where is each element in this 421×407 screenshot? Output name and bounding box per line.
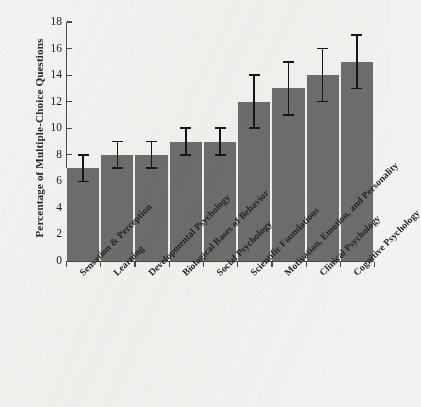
x-tick-mark xyxy=(134,262,135,267)
x-tick-mark xyxy=(271,262,272,267)
errorbar-stem xyxy=(288,62,290,115)
errorbar-cap-upper xyxy=(112,141,123,143)
errorbar-cap-upper xyxy=(78,154,89,156)
y-tick-mark xyxy=(67,75,72,76)
y-tick-label: 14 xyxy=(32,69,62,81)
y-tick-label: 0 xyxy=(32,255,62,267)
x-tick-mark xyxy=(237,262,238,267)
x-tick-mark xyxy=(169,262,170,267)
errorbar-cap-lower xyxy=(146,167,157,169)
errorbar-cap-lower xyxy=(78,181,89,183)
errorbar-cap-upper xyxy=(249,74,260,76)
errorbar-stem xyxy=(151,142,153,169)
errorbar-cap-lower xyxy=(283,114,294,116)
errorbar-stem xyxy=(356,35,358,88)
y-tick-label: 4 xyxy=(32,202,62,214)
y-tick-mark xyxy=(67,48,72,49)
y-tick-label: 12 xyxy=(32,96,62,108)
errorbar-stem xyxy=(322,49,324,102)
x-tick-mark xyxy=(374,262,375,267)
y-tick-label: 8 xyxy=(32,149,62,161)
errorbar-stem xyxy=(82,155,84,182)
errorbar-cap-lower xyxy=(112,167,123,169)
errorbar-stem xyxy=(219,128,221,155)
errorbar-stem xyxy=(185,128,187,155)
errorbar-cap-upper xyxy=(180,127,191,129)
y-tick-mark xyxy=(67,21,72,22)
y-tick-label: 18 xyxy=(32,16,62,28)
errorbar-cap-lower xyxy=(249,127,260,129)
x-tick-mark xyxy=(100,262,101,267)
errorbar-cap-upper xyxy=(283,61,294,63)
x-tick-mark xyxy=(340,262,341,267)
y-tick-label: 6 xyxy=(32,175,62,187)
x-tick-mark xyxy=(66,262,67,267)
y-tick-mark xyxy=(67,128,72,129)
errorbar-cap-lower xyxy=(317,101,328,103)
errorbar-cap-lower xyxy=(180,154,191,156)
errorbar-cap-lower xyxy=(215,154,226,156)
errorbar-cap-lower xyxy=(351,88,362,90)
errorbar-cap-upper xyxy=(146,141,157,143)
y-tick-label: 16 xyxy=(32,43,62,55)
errorbar-stem xyxy=(253,75,255,128)
errorbar-cap-upper xyxy=(351,34,362,36)
y-tick-label: 2 xyxy=(32,228,62,240)
y-tick-mark xyxy=(67,154,72,155)
errorbar-cap-upper xyxy=(317,48,328,50)
errorbar-stem xyxy=(117,142,119,169)
errorbar-cap-upper xyxy=(215,127,226,129)
y-tick-mark xyxy=(67,101,72,102)
x-tick-mark xyxy=(203,262,204,267)
y-tick-label: 10 xyxy=(32,122,62,134)
x-tick-mark xyxy=(306,262,307,267)
